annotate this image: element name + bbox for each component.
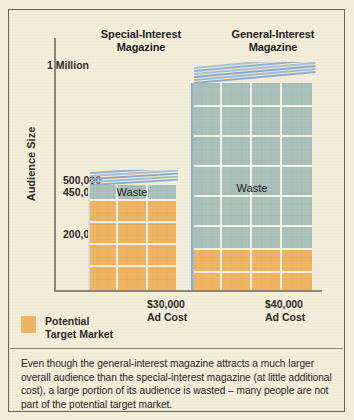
- legend-label-target-market: Potential Target Market: [45, 315, 113, 340]
- x-label-general-cost: $40,000: [265, 298, 305, 311]
- x-label-special-cost: $30,000: [147, 298, 187, 311]
- bar-body-special: [88, 185, 176, 290]
- bar-annotation-waste-special: Waste: [88, 186, 176, 198]
- column-title-general-interest: General-Interest Magazine: [205, 28, 341, 54]
- x-label-general-adcost: Ad Cost: [265, 311, 305, 324]
- bar-special-interest[interactable]: Waste: [88, 170, 176, 290]
- x-axis-line: [54, 290, 322, 292]
- x-label-general-interest: $40,000 Ad Cost: [265, 298, 305, 324]
- legend: Potential Target Market: [21, 315, 113, 340]
- segment-target-market-general: [192, 248, 312, 290]
- y-axis-title: Audience Size: [25, 114, 37, 214]
- legend-swatch-target-market: [21, 316, 36, 333]
- bar-general-interest[interactable]: Waste: [192, 62, 312, 290]
- x-label-special-interest: $30,000 Ad Cost: [147, 298, 187, 324]
- y-axis-line: [54, 38, 56, 292]
- bar-annotation-waste-general: Waste: [192, 182, 312, 194]
- caption-divider: [10, 348, 343, 349]
- chart-frame: Special-Interest Magazine General-Intere…: [8, 9, 345, 412]
- column-title-special-interest: Special-Interest Magazine: [83, 28, 199, 54]
- figure-root: Special-Interest Magazine General-Intere…: [0, 0, 354, 420]
- x-label-special-adcost: Ad Cost: [147, 311, 187, 324]
- y-tick-1-million: 1 Million: [47, 59, 109, 71]
- caption-text: Even though the general-interest magazin…: [21, 357, 334, 411]
